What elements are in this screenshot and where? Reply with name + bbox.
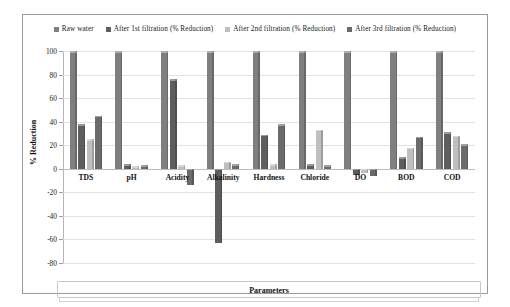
plot-inner: 100806040200-20-40-60-80: [63, 51, 475, 263]
bar-chloride-series-1: [307, 164, 314, 169]
bar-side-edge: [304, 51, 306, 169]
bar-cod-series-3: [461, 144, 468, 169]
bar-side-edge: [75, 51, 77, 169]
legend-swatch-series-1: [106, 27, 111, 32]
plot-area: 100806040200-20-40-60-80: [63, 51, 475, 263]
bar-side-edge: [275, 164, 277, 169]
chart-frame: Raw water After 1st filtration (% Reduct…: [22, 14, 488, 294]
bar-alkalinity-series-3: [232, 164, 239, 169]
bar-side-edge: [330, 165, 332, 169]
bar-side-edge: [184, 165, 186, 169]
y-tick-label-60: 60: [50, 94, 57, 103]
bar-side-edge: [101, 116, 103, 169]
bar-side-edge: [413, 148, 415, 169]
y-tick-label--80: -80: [47, 259, 57, 268]
bar-side-edge: [375, 169, 377, 176]
y-tick-label--40: -40: [47, 211, 57, 220]
legend-item-first-filtration: After 1st filtration (% Reduction): [106, 25, 214, 33]
legend-label-series-0: Raw water: [62, 25, 94, 33]
bar-side-edge: [146, 165, 148, 169]
bar-ph-series-3: [141, 165, 148, 169]
bar-side-edge: [238, 164, 240, 169]
x-axis-title: Parameters: [63, 286, 475, 295]
gridline--80: [63, 263, 475, 264]
bar-side-edge: [192, 169, 194, 185]
bar-side-edge: [404, 157, 406, 169]
bar-ph-series-1: [124, 164, 131, 169]
bar-side-edge: [229, 162, 231, 169]
bar-groups: [63, 51, 475, 263]
bar-cod-series-0: [436, 51, 443, 169]
bar-tds-series-3: [95, 116, 102, 169]
bar-bod-series-0: [390, 51, 397, 169]
chart-legend: Raw water After 1st filtration (% Reduct…: [23, 25, 487, 33]
x-axis-label-hardness: Hardness: [254, 173, 285, 182]
bar-chloride-series-3: [324, 165, 331, 169]
x-axis-label-alkalinity: Alkalinity: [207, 173, 240, 182]
bar-acidity-series-2: [178, 165, 185, 169]
bar-side-edge: [84, 124, 86, 169]
bar-do-series-0: [344, 51, 351, 169]
legend-swatch-series-2: [225, 27, 230, 32]
bar-alkalinity-series-2: [224, 162, 231, 169]
y-tick-label-40: 40: [50, 117, 57, 126]
bar-side-edge: [284, 124, 286, 169]
bar-bod-series-1: [399, 157, 406, 169]
bar-ph-series-2: [132, 166, 139, 168]
x-axis-label-tds: TDS: [78, 173, 93, 182]
y-tick-label-100: 100: [46, 47, 57, 56]
bar-chloride-series-2: [316, 130, 323, 169]
bar-tds-series-1: [78, 124, 85, 169]
bar-side-edge: [321, 130, 323, 169]
x-axis-label-acidity: Acidity: [166, 173, 190, 182]
bar-cod-series-2: [453, 136, 460, 169]
legend-swatch-series-0: [54, 27, 59, 32]
y-tick-label--20: -20: [47, 188, 57, 197]
bar-hardness-series-0: [253, 51, 260, 169]
legend-swatch-series-3: [347, 27, 352, 32]
bar-alkalinity-series-0: [207, 51, 214, 169]
bar-hardness-series-1: [261, 135, 268, 169]
bar-side-edge: [441, 51, 443, 169]
bar-side-edge: [421, 137, 423, 169]
bar-side-edge: [167, 51, 169, 169]
legend-label-series-2: After 2nd filtration (% Reduction): [233, 25, 335, 33]
x-axis-label-chloride: Chloride: [300, 173, 329, 182]
legend-item-raw-water: Raw water: [54, 25, 94, 33]
bar-bod-series-3: [416, 137, 423, 169]
bar-side-edge: [458, 136, 460, 169]
bar-side-edge: [313, 164, 315, 169]
x-axis-label-do: DO: [355, 173, 366, 182]
bar-side-edge: [138, 166, 140, 168]
bar-side-edge: [467, 144, 469, 169]
bar-bod-series-2: [407, 148, 414, 169]
x-axis-band-lower: [59, 298, 479, 302]
bar-side-edge: [350, 51, 352, 169]
bar-tds-series-2: [87, 139, 94, 168]
bar-chloride-series-0: [299, 51, 306, 169]
legend-item-third-filtration: After 3rd filtration (% Reduction): [347, 25, 456, 33]
bar-acidity-series-1: [170, 79, 177, 169]
bar-hardness-series-3: [278, 124, 285, 169]
y-tick-mark--80: [59, 263, 63, 264]
legend-item-second-filtration: After 2nd filtration (% Reduction): [225, 25, 335, 33]
y-tick-label-80: 80: [50, 70, 57, 79]
x-axis-label-ph: pH: [127, 173, 137, 182]
x-axis-label-bod: BOD: [398, 173, 414, 182]
y-tick-label--60: -60: [47, 235, 57, 244]
x-axis-label-cod: COD: [444, 173, 461, 182]
bar-side-edge: [396, 51, 398, 169]
y-tick-label-20: 20: [50, 141, 57, 150]
y-axis-title: % Reduction: [29, 120, 38, 165]
bar-side-edge: [175, 79, 177, 169]
bar-side-edge: [258, 51, 260, 169]
bar-side-edge: [121, 51, 123, 169]
bar-do-series-3: [370, 169, 377, 176]
y-tick-label-0: 0: [53, 164, 57, 173]
bar-side-edge: [212, 51, 214, 169]
bar-side-edge: [129, 164, 131, 169]
legend-label-series-1: After 1st filtration (% Reduction): [114, 25, 214, 33]
bar-cod-series-1: [444, 132, 451, 169]
bar-side-edge: [92, 139, 94, 168]
bar-side-edge: [450, 132, 452, 169]
